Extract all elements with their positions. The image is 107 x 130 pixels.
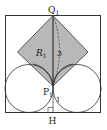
label-h: H	[49, 116, 57, 126]
right-circle	[53, 65, 101, 113]
right-angle-marker	[48, 108, 53, 113]
label-p1: P1	[43, 87, 53, 98]
geometry-diagram: Q1 R1 3 P1 1 H	[0, 0, 107, 130]
label-length-1: 1	[56, 96, 60, 104]
label-q1: Q1	[48, 5, 59, 16]
label-length-3: 3	[57, 49, 62, 58]
